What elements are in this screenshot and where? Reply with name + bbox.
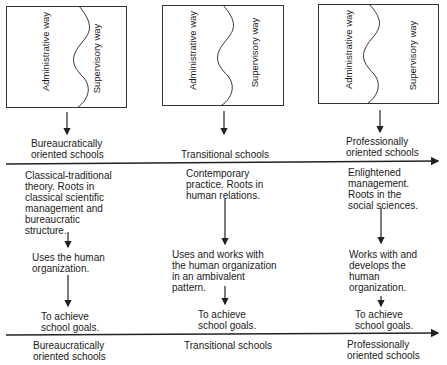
goal-text: To achieve school goals.	[198, 309, 256, 331]
relation-text: Works with and develops the human organi…	[349, 249, 417, 293]
school-type-label-top: Bureaucratically oriented schools	[31, 138, 104, 160]
school-type-label-bottom: Bureaucratically oriented schools	[33, 340, 106, 362]
theory-text: Contemporary practice. Roots in human re…	[186, 168, 263, 201]
supervisory-way-label: Supervisory way	[91, 14, 102, 104]
school-type-label-bottom: Professionally oriented schools	[347, 339, 420, 361]
school-type-label-bottom: Transitional schools	[184, 340, 272, 351]
supervisory-way-label: Supervisory way	[249, 8, 260, 98]
school-type-label-top: Professionally oriented schools	[346, 136, 419, 158]
administrative-way-label: Administrative way	[40, 2, 51, 102]
theory-text: Classical-traditional theory. Roots in c…	[25, 170, 112, 236]
administrative-way-label: Administrative way	[187, 1, 198, 101]
theory-text: Enlightened management. Roots in the soc…	[348, 167, 418, 211]
goal-text: To achieve school goals.	[355, 309, 413, 331]
relation-text: Uses the human organization.	[32, 252, 105, 274]
supervisory-way-label: Supervisory way	[407, 11, 418, 101]
school-type-label-top: Transitional schools	[181, 149, 269, 160]
administrative-way-label: Administrative way	[343, 0, 354, 100]
relation-text: Uses and works with the human organizati…	[172, 249, 277, 293]
goal-text: To achieve school goals.	[41, 311, 99, 333]
